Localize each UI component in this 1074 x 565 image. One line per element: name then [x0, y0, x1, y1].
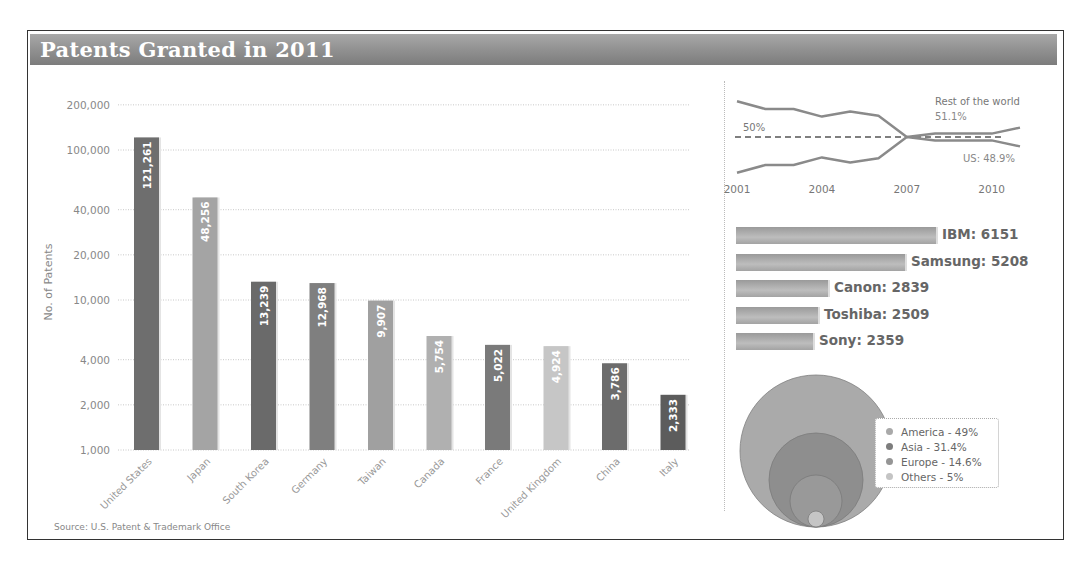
y-tick-label: 100,000	[67, 144, 110, 156]
bar-value-label: 13,239	[258, 286, 270, 327]
y-tick-label: 2,000	[80, 399, 110, 411]
x-tick-label: 2004	[809, 183, 836, 195]
company-label: Toshiba: 2509	[824, 306, 929, 322]
x-tick-label: Germany	[289, 456, 329, 496]
x-tick-label: Japan	[184, 456, 212, 484]
y-axis-label: No. of Patents	[42, 243, 55, 320]
x-tick-label: Canada	[412, 456, 447, 491]
company-bar	[736, 227, 938, 244]
us-label: US: 48.9%	[963, 153, 1015, 164]
legend-item-asia: Asia - 31.4%	[886, 439, 998, 454]
legend-item-others: Others - 5%	[886, 469, 998, 484]
y-tick-label: 1,000	[80, 444, 110, 456]
y-tick-label: 20,000	[73, 249, 110, 261]
bar-value-label: 3,786	[609, 367, 621, 400]
y-tick-label: 200,000	[67, 99, 110, 111]
y-tick-label: 40,000	[73, 204, 110, 216]
legend-dot-icon	[886, 473, 893, 480]
company-label: Sony: 2359	[819, 332, 904, 348]
bar-value-label: 5,754	[433, 340, 445, 373]
y-tick-label: 4,000	[80, 354, 110, 366]
x-tick-label: Italy	[657, 456, 680, 479]
legend-dot-icon	[886, 428, 893, 435]
region-circle-others	[808, 511, 824, 527]
rest-of-world-label: Rest of the world	[935, 96, 1020, 107]
x-tick-label: Taiwan	[355, 456, 388, 489]
bar-value-label: 4,924	[550, 350, 562, 383]
bar-value-label: 48,256	[199, 201, 211, 242]
bar-value-label: 12,968	[316, 287, 328, 328]
company-bar	[736, 333, 815, 350]
company-label: IBM: 6151	[942, 226, 1018, 242]
x-tick-label: South Korea	[220, 456, 271, 507]
legend-item-america: America - 49%	[886, 424, 998, 439]
region-legend: America - 49% Asia - 31.4% Europe - 14.6…	[875, 418, 999, 488]
x-tick-label: United States	[98, 456, 154, 512]
x-tick-label: China	[594, 456, 622, 484]
bar-value-label: 2,333	[667, 399, 679, 432]
legend-dot-icon	[886, 458, 893, 465]
x-tick-label: France	[474, 456, 505, 487]
x-tick-label: 2007	[893, 183, 920, 195]
bar-value-label: 121,261	[141, 141, 153, 189]
reference-label: 50%	[743, 122, 765, 133]
company-bar	[736, 254, 907, 271]
company-bar	[736, 280, 830, 297]
x-tick-label: 2010	[978, 183, 1005, 195]
y-tick-label: 10,000	[73, 294, 110, 306]
bar-value-label: 5,022	[492, 349, 504, 382]
company-label: Canon: 2839	[834, 279, 929, 295]
x-tick-label: United Kingdom	[499, 456, 564, 521]
x-tick-label: 2001	[724, 183, 751, 195]
bar-value-label: 9,907	[375, 305, 387, 338]
legend-item-europe: Europe - 14.6%	[886, 454, 998, 469]
company-bar	[736, 307, 820, 324]
company-label: Samsung: 5208	[911, 253, 1029, 269]
rest-of-world-value: 51.1%	[935, 111, 967, 122]
legend-dot-icon	[886, 443, 893, 450]
